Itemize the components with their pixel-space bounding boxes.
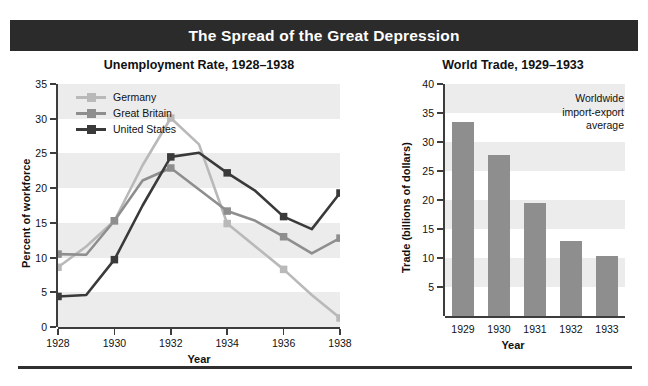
unemployment-chart-title: Unemployment Rate, 1928–1938: [10, 58, 388, 72]
x-tick-label: 1929: [451, 323, 474, 335]
series-marker-great-britain: [223, 207, 231, 215]
y-tick: [437, 170, 443, 172]
series-marker-germany: [223, 220, 231, 228]
bar-1929: [452, 122, 474, 316]
y-tick-label: 35: [35, 78, 47, 90]
y-tick: [50, 326, 56, 328]
series-marker-united-states: [58, 293, 62, 301]
legend-label: United States: [113, 123, 176, 135]
y-tick: [437, 112, 443, 114]
y-tick: [50, 83, 56, 85]
series-marker-germany: [58, 264, 62, 272]
unemployment-legend: GermanyGreat BritainUnited States: [76, 90, 176, 138]
legend-label: Great Britain: [113, 107, 172, 119]
series-marker-united-states: [223, 169, 231, 177]
series-line-germany: [58, 118, 340, 318]
bar-1933: [596, 256, 618, 316]
x-tick-label: 1932: [559, 323, 582, 335]
series-marker-united-states: [111, 256, 119, 264]
x-tick: [114, 329, 116, 335]
y-tick-label: 40: [422, 78, 434, 90]
y-tick-label: 20: [422, 194, 434, 206]
x-tick-label: 1931: [523, 323, 546, 335]
y-tick-label: 20: [35, 182, 47, 194]
y-tick: [437, 228, 443, 230]
world-trade-y-axis: [443, 84, 445, 316]
legend-item-great-britain: Great Britain: [76, 106, 176, 120]
legend-swatch: [76, 107, 106, 119]
series-marker-great-britain: [111, 217, 119, 225]
y-tick: [437, 83, 443, 85]
y-tick: [50, 152, 56, 154]
series-marker-great-britain: [167, 164, 175, 172]
y-tick: [437, 286, 443, 288]
legend-marker: [87, 125, 96, 134]
legend-label: Germany: [113, 91, 156, 103]
y-tick: [50, 257, 56, 259]
legend-item-united-states: United States: [76, 122, 176, 136]
y-tick: [50, 187, 56, 189]
figure-title: The Spread of the Great Depression: [188, 27, 459, 45]
annotation-line: import-export: [514, 106, 624, 120]
y-tick-label: 35: [422, 107, 434, 119]
unemployment-x-axis-label: Year: [10, 353, 388, 365]
series-marker-germany: [280, 266, 288, 274]
y-tick: [50, 222, 56, 224]
x-tick-label: 1932: [159, 337, 182, 349]
x-tick-label: 1930: [487, 323, 510, 335]
y-tick: [437, 257, 443, 259]
y-tick-label: 25: [422, 165, 434, 177]
x-tick-label: 1938: [328, 337, 351, 349]
x-tick-label: 1933: [595, 323, 618, 335]
y-tick-label: 25: [35, 147, 47, 159]
series-marker-great-britain: [280, 233, 288, 241]
x-tick: [339, 329, 341, 335]
world-trade-x-axis-label: Year: [388, 339, 638, 351]
series-marker-united-states: [167, 153, 175, 161]
figure-root: The Spread of the Great Depression Unemp…: [0, 0, 648, 386]
series-marker-united-states: [280, 213, 288, 221]
y-tick-label: 30: [422, 136, 434, 148]
y-tick: [437, 199, 443, 201]
annotation-line: average: [514, 119, 624, 133]
unemployment-chart-panel: Unemployment Rate, 1928–1938 Percent of …: [10, 58, 388, 358]
world-trade-chart-panel: World Trade, 1929–1933 Trade (billions o…: [388, 58, 638, 358]
x-tick-label: 1930: [103, 337, 126, 349]
legend-swatch: [76, 123, 106, 135]
y-tick: [50, 118, 56, 120]
annotation-line: Worldwide: [514, 92, 624, 106]
world-trade-y-axis-label: Trade (billions of dollars): [400, 142, 412, 273]
y-tick-label: 0: [41, 321, 47, 333]
y-tick: [437, 141, 443, 143]
unemployment-x-axis: [58, 327, 340, 329]
y-tick-label: 15: [422, 223, 434, 235]
x-tick: [57, 329, 59, 335]
legend-swatch: [76, 91, 106, 103]
world-trade-x-axis: [445, 316, 625, 318]
legend-item-germany: Germany: [76, 90, 176, 104]
bar-1930: [488, 155, 510, 316]
legend-marker: [87, 93, 96, 102]
x-tick-label: 1928: [46, 337, 69, 349]
series-line-great-britain: [58, 168, 340, 255]
series-marker-germany: [336, 314, 340, 322]
y-tick-label: 30: [35, 113, 47, 125]
y-tick: [50, 291, 56, 293]
bar-1931: [524, 203, 546, 316]
world-trade-annotation: Worldwideimport-exportaverage: [514, 92, 624, 133]
figure-banner: The Spread of the Great Depression: [10, 20, 638, 51]
bottom-divider: [18, 366, 632, 369]
y-tick-label: 10: [422, 252, 434, 264]
series-marker-great-britain: [336, 234, 340, 242]
series-marker-united-states: [336, 189, 340, 197]
x-tick-label: 1936: [272, 337, 295, 349]
bar-1932: [560, 241, 582, 316]
y-tick-label: 5: [428, 281, 434, 293]
y-tick-label: 10: [35, 252, 47, 264]
legend-marker: [87, 109, 96, 118]
x-tick-label: 1934: [216, 337, 239, 349]
x-tick: [226, 329, 228, 335]
y-tick-label: 5: [41, 286, 47, 298]
series-line-united-states: [58, 153, 340, 297]
y-tick-label: 15: [35, 217, 47, 229]
